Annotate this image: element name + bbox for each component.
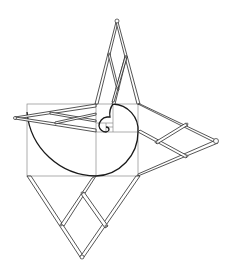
bottom-linkage-arm xyxy=(27,176,140,259)
left-linkage-arm xyxy=(14,104,97,132)
top-linkage-arm xyxy=(95,19,140,104)
right-linkage-arm xyxy=(138,104,219,176)
golden-spiral-linkage-diagram xyxy=(0,0,237,279)
